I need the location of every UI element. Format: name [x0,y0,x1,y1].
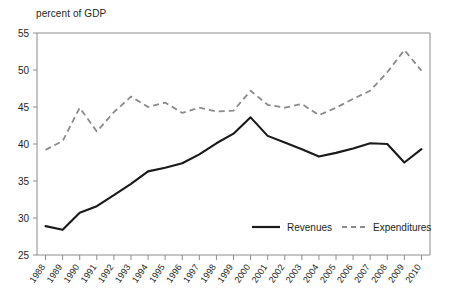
series-line-revenues [46,117,422,229]
y-tick-label: 35 [18,176,30,187]
y-tick-label: 25 [18,250,30,261]
x-axis-ticks [46,255,422,260]
x-tick-label: 2009 [386,262,406,284]
x-tick-label: 2007 [352,262,372,284]
x-tick-label: 2005 [318,262,338,284]
x-tick-label: 1989 [45,262,65,284]
x-tick-label: 1990 [62,262,82,284]
x-tick-label: 2002 [267,262,287,284]
x-tick-label: 2003 [284,262,304,284]
series-line-expenditures [46,50,422,150]
y-tick-label: 30 [18,213,30,224]
legend-label-revenues: Revenues [287,222,332,233]
x-tick-label: 1998 [198,262,218,284]
x-tick-label: 2000 [233,262,253,284]
legend-label-expenditures: Expenditures [373,222,431,233]
x-tick-label: 1993 [113,262,133,284]
chart-container: percent of GDP 25303540455055 1988198919… [0,0,449,298]
y-tick-label: 45 [18,102,30,113]
x-tick-label: 1996 [164,262,184,284]
chart-legend: Revenues Expenditures [252,222,431,233]
plot-area: 25303540455055 1988198919901991199219931… [0,0,449,298]
x-tick-label: 2008 [369,262,389,284]
y-tick-label: 40 [18,139,30,150]
x-tick-label: 1991 [79,262,99,284]
y-axis-labels: 25303540455055 [18,28,30,261]
x-tick-label: 1994 [130,262,150,284]
x-tick-label: 1997 [181,262,201,284]
x-tick-label: 1988 [28,262,48,284]
x-axis-labels: 1988198919901991199219931994199519961997… [28,262,424,284]
y-axis-ticks [33,33,37,255]
x-tick-label: 1999 [215,262,235,284]
x-tick-label: 1995 [147,262,167,284]
x-tick-label: 2010 [403,262,423,284]
x-tick-label: 2001 [250,262,270,284]
y-tick-label: 50 [18,65,30,76]
x-tick-label: 2004 [301,262,321,284]
x-tick-label: 1992 [96,262,116,284]
y-tick-label: 55 [18,28,30,39]
x-tick-label: 2006 [335,262,355,284]
chart-svg: 25303540455055 1988198919901991199219931… [0,0,449,298]
